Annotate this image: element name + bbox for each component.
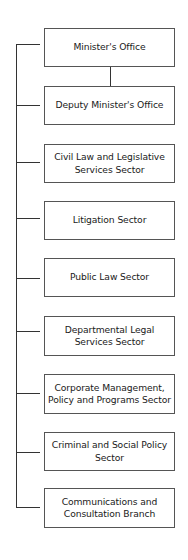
box-criminal-social-policy-sector: Criminal and Social Policy Sector bbox=[44, 432, 175, 471]
box-corporate-management-sector: Corporate Management, Policy and Program… bbox=[44, 374, 175, 414]
box-label: Criminal and Social Policy Sector bbox=[48, 439, 171, 464]
org-chart: Minister's Office Deputy Minister's Offi… bbox=[0, 0, 188, 560]
box-label: Deputy Minister's Office bbox=[56, 99, 164, 112]
connector-stub bbox=[16, 452, 40, 453]
connector-stub bbox=[16, 105, 40, 106]
connector-stub bbox=[16, 278, 40, 279]
box-label: Corporate Management, Policy and Program… bbox=[48, 382, 171, 407]
box-civil-law-sector: Civil Law and Legislative Services Secto… bbox=[44, 144, 175, 183]
connector-stub bbox=[16, 393, 40, 394]
connector-stub bbox=[16, 218, 40, 219]
box-label: Civil Law and Legislative Services Secto… bbox=[48, 151, 171, 176]
box-departmental-legal-services-sector: Departmental Legal Services Sector bbox=[44, 316, 175, 356]
box-label: Public Law Sector bbox=[70, 271, 149, 284]
box-public-law-sector: Public Law Sector bbox=[44, 258, 175, 297]
connector-stub bbox=[16, 507, 40, 508]
box-ministers-office: Minister's Office bbox=[44, 28, 175, 67]
box-label: Minister's Office bbox=[73, 41, 145, 54]
connector-stub bbox=[16, 44, 40, 45]
box-label: Communications and Consultation Branch bbox=[48, 496, 171, 521]
connector-spine bbox=[16, 44, 17, 508]
box-label: Litigation Sector bbox=[73, 214, 147, 227]
box-deputy-ministers-office: Deputy Minister's Office bbox=[44, 86, 175, 125]
connector-minister-to-deputy bbox=[110, 67, 111, 86]
connector-stub bbox=[16, 162, 40, 163]
box-litigation-sector: Litigation Sector bbox=[44, 201, 175, 240]
connector-stub bbox=[16, 331, 40, 332]
box-communications-consultation-branch: Communications and Consultation Branch bbox=[44, 488, 175, 528]
box-label: Departmental Legal Services Sector bbox=[48, 324, 171, 349]
